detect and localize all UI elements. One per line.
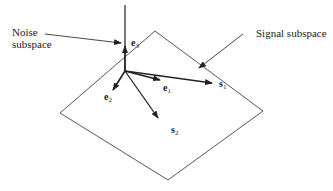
s1-vector xyxy=(125,71,212,83)
noise-label-line2: subspace xyxy=(12,38,52,50)
noise-label-line1: Noise xyxy=(12,26,52,38)
signal-subspace-label: Signal subspace xyxy=(256,27,327,39)
e2-vector xyxy=(113,71,125,90)
signal-pointer-arrow xyxy=(199,34,243,68)
s2-label: s2 xyxy=(171,125,178,138)
noise-subspace-label: Noise subspace xyxy=(12,26,52,50)
signal-plane xyxy=(60,31,263,180)
e2-label: e2 xyxy=(104,92,112,105)
e3-label: e3 xyxy=(131,38,139,51)
e1-label: e1 xyxy=(163,83,171,96)
noise-pointer-arrow xyxy=(45,34,121,43)
s1-label: s1 xyxy=(219,79,226,92)
